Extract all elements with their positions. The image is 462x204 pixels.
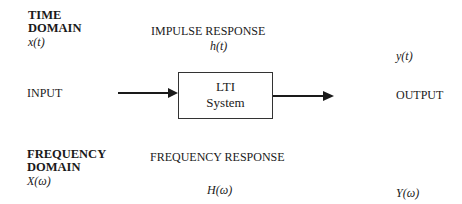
output-signal-frequency: Y(ω) xyxy=(396,186,419,200)
output-label: OUTPUT xyxy=(396,88,443,102)
input-arrow-icon xyxy=(118,88,178,98)
output-arrow-icon xyxy=(273,91,334,101)
frequency-response-symbol: H(ω) xyxy=(207,183,232,197)
frequency-domain-heading-line2: DOMAIN xyxy=(27,160,80,174)
input-signal-frequency: X(ω) xyxy=(27,174,51,188)
frequency-response-label: FREQUENCY RESPONSE xyxy=(150,150,285,164)
frequency-domain-heading-line1: FREQUENCY xyxy=(27,147,106,161)
